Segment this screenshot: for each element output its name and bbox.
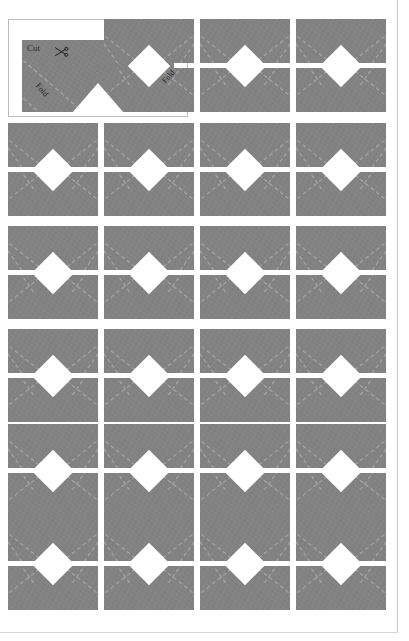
envelope-template-cell (296, 517, 386, 610)
envelope-template-cell (200, 517, 290, 610)
envelope-template-cell (8, 517, 98, 610)
envelope-template-cell (296, 19, 386, 112)
envelope-template-cell (104, 517, 194, 610)
scissors-icon (53, 46, 69, 58)
cut-label: Cut (27, 44, 40, 53)
envelope-template-cell (200, 19, 290, 112)
envelope-template-cell (200, 226, 290, 319)
envelope-template-cell (104, 226, 194, 319)
envelope-template-cell (296, 123, 386, 216)
page-edge-right (397, 0, 398, 633)
envelope-template-cell (200, 329, 290, 422)
envelope-template-cell (200, 424, 290, 517)
envelope-template-cell (8, 123, 98, 216)
envelope-template-cell (104, 424, 194, 517)
cut-notch-triangle (72, 83, 124, 112)
envelope-template-cell (8, 226, 98, 319)
envelope-template-cell (8, 424, 98, 517)
page-edge-bottom (0, 632, 398, 633)
template-sheet-page: Cut Fold Fold (0, 0, 409, 641)
envelope-template-cell (104, 329, 194, 422)
envelope-template-cell (296, 424, 386, 517)
envelope-template-cell (8, 329, 98, 422)
envelope-template-cell (296, 329, 386, 422)
envelope-template-cell (296, 226, 386, 319)
envelope-template-cell (200, 123, 290, 216)
envelope-template-cell (104, 123, 194, 216)
